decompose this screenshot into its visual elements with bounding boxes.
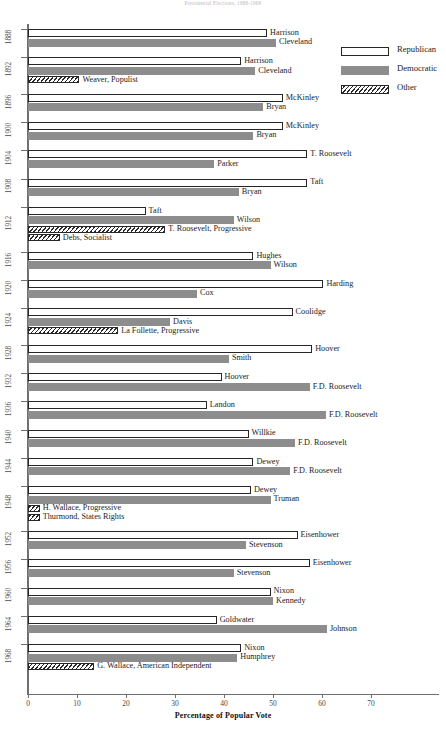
bar-label-1912-rep: Taft [149, 207, 162, 215]
x-tick-60 [322, 694, 323, 698]
year-tick-1896 [21, 94, 27, 95]
x-tick-50 [273, 694, 274, 698]
year-tick-1940 [21, 430, 27, 431]
year-tick-1932 [21, 373, 27, 374]
x-tick-40 [224, 694, 225, 698]
bar-label-1960-dem: Kennedy [276, 597, 306, 605]
bar-label-1952-dem: Stevenson [249, 541, 283, 549]
x-tick-label-10: 10 [73, 699, 81, 708]
year-tick-1928 [21, 345, 27, 346]
bar-label-1916-rep: Hughes [256, 252, 281, 260]
year-label-1968: 1968 [5, 643, 13, 669]
bar-1892-dem [28, 67, 255, 75]
legend-swatch-democratic [341, 66, 389, 75]
bar-1956-rep [28, 559, 310, 567]
bar-label-1920-rep: Harding [326, 280, 353, 288]
bar-1968-rep [28, 644, 241, 652]
year-label-1932: 1932 [5, 368, 13, 394]
bar-label-1936-rep: Landon [210, 401, 235, 409]
bar-label-1968-rep: Nixon [244, 644, 264, 652]
bar-label-1932-rep: Hoover [225, 373, 250, 381]
year-tick-1908 [21, 179, 27, 180]
year-label-1892: 1892 [5, 56, 13, 82]
bar-label-1948-rep: Dewey [254, 486, 277, 494]
bar-label-1892-oth: Weaver, Populist [82, 76, 137, 84]
bar-1948-dem [28, 496, 271, 504]
bar-1916-rep [28, 252, 253, 260]
year-label-1936: 1936 [5, 396, 13, 422]
bar-label-1936-dem: F.D. Roosevelt [329, 411, 378, 419]
bar-label-1956-rep: Eisenhower [313, 559, 352, 567]
bar-1912-rep [28, 207, 146, 215]
bar-label-1908-dem: Bryan [242, 188, 262, 196]
bar-1964-rep [28, 616, 217, 624]
year-label-1904: 1904 [5, 145, 13, 171]
bar-label-1952-rep: Eisenhower [301, 531, 340, 539]
bar-1892-oth [28, 76, 79, 83]
bar-1908-dem [28, 188, 239, 196]
year-label-1920: 1920 [5, 275, 13, 301]
year-label-1928: 1928 [5, 340, 13, 366]
x-tick-30 [175, 694, 176, 698]
year-tick-1920 [21, 280, 27, 281]
bar-1900-dem [28, 132, 253, 140]
bar-1968-dem [28, 654, 237, 662]
year-label-1944: 1944 [5, 453, 13, 479]
bar-1948-oth [28, 514, 40, 521]
bar-label-1896-dem: Bryan [266, 103, 286, 111]
bar-label-1908-rep: Taft [310, 178, 323, 186]
bar-label-1912-dem: Wilson [237, 216, 260, 224]
year-tick-1960 [21, 588, 27, 589]
legend-label-republican: Republican [397, 44, 436, 54]
bar-1960-rep [28, 588, 271, 596]
bar-label-1960-rep: Nixon [274, 587, 294, 595]
bar-1896-dem [28, 103, 263, 111]
x-tick-label-20: 20 [122, 699, 130, 708]
x-tick-label-30: 30 [171, 699, 179, 708]
bar-1892-rep [28, 57, 241, 65]
year-label-1916: 1916 [5, 247, 13, 273]
year-tick-1912 [21, 207, 27, 208]
legend-swatch-republican [341, 47, 389, 56]
year-tick-1964 [21, 616, 27, 617]
x-axis-label: Percentage of Popular Vote [0, 711, 446, 720]
year-tick-1968 [21, 644, 27, 645]
x-tick-10 [77, 694, 78, 698]
year-label-1924: 1924 [5, 307, 13, 333]
year-label-1900: 1900 [5, 117, 13, 143]
x-tick-label-60: 60 [318, 699, 326, 708]
bar-1940-dem [28, 439, 295, 447]
bar-label-1888-rep: Harrison [270, 29, 299, 37]
x-tick-label-70: 70 [367, 699, 375, 708]
bar-label-1912-oth: Debs, Socialist [63, 234, 112, 242]
bar-label-1956-dem: Stevenson [237, 569, 271, 577]
bar-1888-rep [28, 29, 267, 37]
bar-label-1928-dem: Smith [232, 354, 252, 362]
bar-1908-rep [28, 179, 307, 187]
chart-title: Presidential Elections, 1888-1968 [0, 0, 446, 6]
year-tick-1892 [21, 57, 27, 58]
year-label-1960: 1960 [5, 582, 13, 608]
bar-1952-rep [28, 531, 298, 539]
bar-label-1940-rep: Willkie [252, 429, 276, 437]
year-label-1888: 1888 [5, 24, 13, 50]
bar-label-1924-rep: Coolidge [296, 308, 326, 316]
bar-1944-rep [28, 458, 253, 466]
year-label-1940: 1940 [5, 424, 13, 450]
bar-1916-dem [28, 261, 271, 269]
bar-label-1896-rep: McKinley [286, 94, 319, 102]
bar-label-1924-oth: La Follette, Progressive [121, 327, 199, 335]
bar-label-1968-oth: G. Wallace, American Independent [97, 662, 211, 670]
year-tick-1888 [21, 29, 27, 30]
bar-label-1920-dem: Cox [200, 289, 214, 297]
bar-1904-rep [28, 150, 307, 158]
bar-label-1912-oth: T. Roosevelt, Progressive [168, 225, 252, 233]
x-tick-20 [126, 694, 127, 698]
bar-1924-oth [28, 327, 118, 334]
legend-swatch-other [341, 85, 389, 94]
year-tick-1916 [21, 252, 27, 253]
year-tick-1952 [21, 531, 27, 532]
bar-1968-oth [28, 663, 94, 670]
bar-label-1928-rep: Hoover [315, 345, 340, 353]
bar-1928-dem [28, 355, 229, 363]
